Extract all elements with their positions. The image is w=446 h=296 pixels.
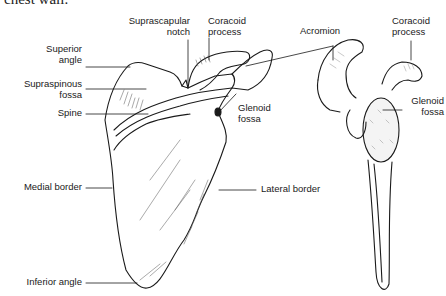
label-spine: Spine (14, 108, 82, 119)
posterior-scapula (105, 50, 272, 288)
leader-lines (86, 38, 411, 283)
label-glenoid-fossa-left: Glenoid fossa (238, 103, 271, 124)
label-inferior-angle: Inferior angle (0, 277, 82, 288)
label-glenoid-fossa-right: Glenoid fossa (396, 96, 444, 117)
label-coracoid-process-right: Coracoid process (392, 16, 430, 37)
label-lateral-border: Lateral border (261, 184, 320, 195)
label-suprascapular-notch: Suprascapular notch (118, 16, 190, 37)
label-medial-border: Medial border (0, 182, 82, 193)
label-coracoid-process-left: Coracoid process (208, 16, 246, 37)
label-acromion: Acromion (300, 26, 340, 37)
lateral-scapula (318, 40, 423, 290)
label-supraspinous-fossa: Supraspinous fossa (0, 79, 82, 100)
label-superior-angle: Superior angle (14, 44, 82, 65)
scapula-diagram: chest wall. (0, 0, 446, 296)
